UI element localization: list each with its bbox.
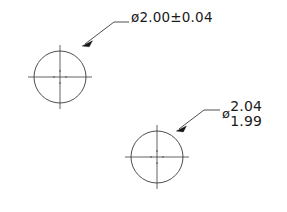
leader-1-shaft	[85, 22, 114, 44]
circle-2-group	[125, 125, 189, 189]
dimension-text-limits: ø 2.04 1.99	[222, 99, 262, 128]
circle-1-group	[28, 45, 92, 109]
leader-line-2-group	[176, 110, 220, 132]
upper-limit-value: 2.04	[230, 99, 262, 114]
limit-stack: 2.04 1.99	[230, 99, 262, 128]
lower-limit-value: 1.99	[230, 114, 262, 129]
dimension-text-symmetric: ø2.00±0.04	[131, 10, 213, 25]
diameter-symbol-icon: ø	[222, 106, 230, 121]
leader-2-shaft	[179, 110, 204, 129]
leader-line-1-group	[82, 22, 129, 47]
technical-drawing-canvas: ø2.00±0.04 ø 2.04 1.99	[0, 0, 287, 212]
